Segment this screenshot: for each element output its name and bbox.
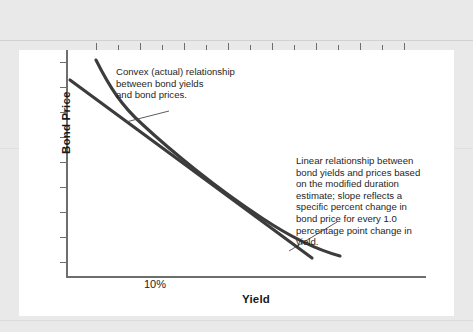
page-rule-top: [0, 40, 473, 41]
page-rule-bottom: [0, 320, 473, 321]
annotation-linear-relationship: Linear relationship between bond yields …: [296, 155, 438, 248]
x-axis-title: Yield: [242, 293, 270, 305]
bond-price-yield-figure: Bond Price 10% Yield Convex (actual) rel…: [0, 0, 473, 332]
y-axis-title: Bond Price: [60, 91, 72, 154]
chart-panel: Bond Price 10% Yield Convex (actual) rel…: [19, 50, 454, 316]
linear-line: [70, 80, 312, 258]
x-tick-label-10-percent: 10%: [144, 278, 166, 290]
annotation-convex-relationship: Convex (actual) relationship between bon…: [116, 66, 296, 101]
